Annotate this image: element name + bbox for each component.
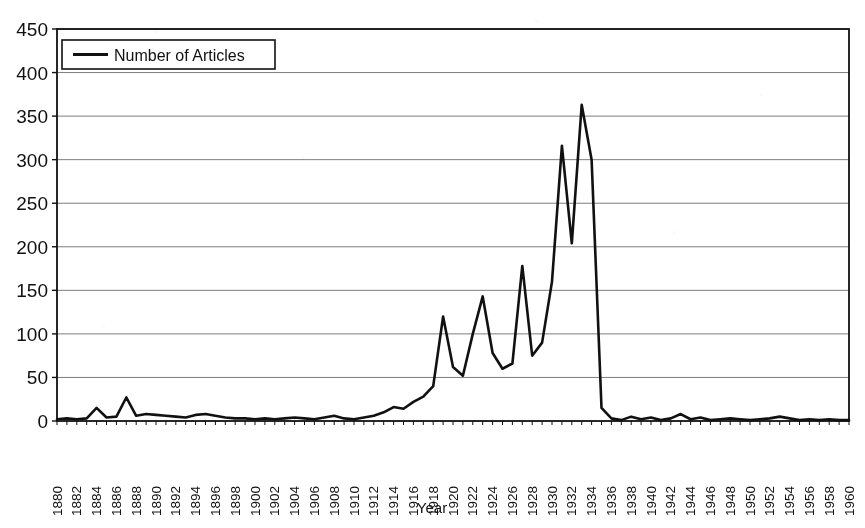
x-tick-1928: 1928	[525, 486, 540, 516]
y-tick-150: 150	[16, 280, 48, 301]
x-tick-1958: 1958	[822, 486, 837, 516]
x-tick-1950: 1950	[743, 486, 758, 516]
x-tick-1884: 1884	[89, 486, 104, 517]
x-tick-1934: 1934	[584, 486, 599, 517]
x-tick-1936: 1936	[604, 486, 619, 516]
x-tick-1946: 1946	[703, 486, 718, 516]
x-tick-1948: 1948	[723, 486, 738, 516]
x-tick-1952: 1952	[762, 486, 777, 516]
x-tick-1922: 1922	[465, 486, 480, 516]
x-tick-1902: 1902	[267, 486, 282, 516]
legend-label-number-of-articles: Number of Articles	[114, 47, 245, 64]
x-tick-1932: 1932	[564, 486, 579, 516]
x-axis-tick-labels: 1880188218841886188818901892189418961898…	[50, 421, 857, 516]
series-line-0	[57, 105, 849, 420]
x-tick-1912: 1912	[366, 486, 381, 516]
x-tick-1892: 1892	[168, 486, 183, 516]
y-tick-0: 0	[37, 411, 48, 432]
y-tick-200: 200	[16, 237, 48, 258]
x-tick-1886: 1886	[109, 486, 124, 516]
x-tick-1894: 1894	[188, 486, 203, 517]
y-tick-100: 100	[16, 324, 48, 345]
y-tick-300: 300	[16, 150, 48, 171]
y-tick-450: 450	[16, 19, 48, 40]
articles-per-year-line-chart: 050100150200250300350400450 188018821884…	[0, 0, 865, 528]
y-tick-400: 400	[16, 63, 48, 84]
x-tick-1926: 1926	[505, 486, 520, 516]
x-tick-1956: 1956	[802, 486, 817, 516]
x-tick-1904: 1904	[287, 486, 302, 517]
x-tick-1954: 1954	[782, 486, 797, 517]
y-tick-50: 50	[27, 367, 48, 388]
y-tick-350: 350	[16, 106, 48, 127]
x-tick-1880: 1880	[50, 486, 65, 516]
y-tick-250: 250	[16, 193, 48, 214]
x-tick-1906: 1906	[307, 486, 322, 516]
x-tick-1924: 1924	[485, 486, 500, 517]
x-tick-1942: 1942	[663, 486, 678, 516]
gridlines-group	[57, 29, 849, 377]
x-tick-1940: 1940	[644, 486, 659, 516]
x-tick-1896: 1896	[208, 486, 223, 516]
x-tick-1890: 1890	[149, 486, 164, 516]
x-tick-1882: 1882	[69, 486, 84, 516]
x-tick-1908: 1908	[327, 486, 342, 516]
x-tick-1910: 1910	[347, 486, 362, 516]
x-tick-1898: 1898	[228, 486, 243, 516]
x-tick-1914: 1914	[386, 486, 401, 517]
x-axis-title: Year	[417, 499, 447, 516]
x-tick-1920: 1920	[446, 486, 461, 516]
x-tick-1900: 1900	[248, 486, 263, 516]
x-tick-1960: 1960	[842, 486, 857, 516]
chart-container: 050100150200250300350400450 188018821884…	[0, 0, 865, 528]
chart-legend: Number of Articles	[62, 40, 275, 69]
x-tick-1938: 1938	[624, 486, 639, 516]
data-series-group	[57, 105, 849, 420]
y-axis-tick-labels: 050100150200250300350400450	[16, 19, 57, 432]
x-tick-1944: 1944	[683, 486, 698, 517]
x-tick-1888: 1888	[129, 486, 144, 516]
x-tick-1930: 1930	[545, 486, 560, 516]
